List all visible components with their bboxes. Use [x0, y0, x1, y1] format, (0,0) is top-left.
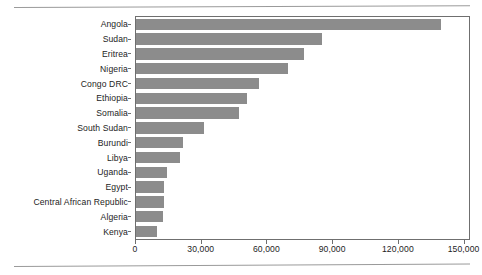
bar-row [136, 121, 469, 136]
page-rule-bottom [14, 264, 470, 267]
category-tick-ethiopia: Ethiopia [0, 91, 130, 106]
category-tick-label: Libya [107, 153, 128, 163]
category-tick-mark [128, 83, 131, 84]
category-tick-angola: Angola [0, 17, 130, 32]
bar-row [136, 165, 469, 180]
category-tick-label: Somalia [96, 108, 128, 118]
bar [136, 48, 304, 59]
category-tick-label: Congo DRC [81, 79, 128, 89]
bar-chart-figure: AngolaSudanEritreaNigeriaCongo DRCEthiop… [0, 0, 482, 275]
value-tick-label: 30,000 [187, 244, 214, 254]
category-tick-kenya: Kenya [0, 224, 130, 239]
value-tick-label: 150,000 [448, 244, 480, 254]
value-tick-label: 60,000 [253, 244, 280, 254]
bar-row [136, 180, 469, 195]
category-tick-eritrea: Eritrea [0, 47, 130, 62]
bar-row [136, 106, 469, 121]
bar-row [136, 195, 469, 210]
category-tick-mark [128, 53, 131, 54]
page-rule-top [14, 5, 470, 8]
bar [136, 93, 247, 104]
category-tick-egypt: Egypt [0, 180, 130, 195]
category-tick-mark [128, 68, 131, 69]
category-tick-mark [128, 24, 131, 25]
value-axis: 030,00060,00090,000120,000150,000 [135, 240, 471, 262]
bar-row [136, 32, 469, 47]
bar-row [136, 17, 469, 32]
category-tick-mark [128, 142, 131, 143]
category-tick-algeria: Algeria [0, 209, 130, 224]
category-tick-uganda: Uganda [0, 165, 130, 180]
value-tick-label: 90,000 [319, 244, 346, 254]
category-tick-label: Eritrea [102, 49, 128, 59]
category-tick-mark [128, 98, 131, 99]
category-tick-label: Angola [101, 19, 128, 29]
category-tick-mark [128, 127, 131, 128]
category-tick-mark [128, 157, 131, 158]
bar [136, 211, 163, 222]
category-tick-burundi: Burundi [0, 135, 130, 150]
bar [136, 63, 288, 74]
bar-row [136, 209, 469, 224]
bar [136, 78, 259, 89]
category-tick-label: Ethiopia [96, 93, 128, 103]
category-tick-mark [128, 216, 131, 217]
category-tick-mark [128, 113, 131, 114]
bar-row [136, 91, 469, 106]
bar [136, 226, 157, 237]
category-tick-label: Burundi [98, 138, 128, 148]
bar-row [136, 135, 469, 150]
bar [136, 167, 167, 178]
bar-row [136, 224, 469, 239]
category-tick-mark [128, 172, 131, 173]
category-tick-south-sudan: South Sudan [0, 121, 130, 136]
category-tick-somalia: Somalia [0, 106, 130, 121]
bar-series [136, 17, 469, 239]
bar [136, 137, 183, 148]
category-tick-label: Kenya [103, 227, 128, 237]
value-tick-label: 120,000 [382, 244, 414, 254]
bar-row [136, 76, 469, 91]
bar [136, 181, 164, 192]
category-tick-label: Central African Republic [33, 197, 128, 207]
category-tick-mark [128, 201, 131, 202]
bar [136, 152, 180, 163]
bar-row [136, 150, 469, 165]
bar [136, 19, 441, 30]
category-tick-label: Uganda [97, 167, 128, 177]
bar-row [136, 47, 469, 62]
category-tick-label: Nigeria [100, 64, 128, 74]
category-tick-congo-drc: Congo DRC [0, 76, 130, 91]
category-tick-label: Algeria [101, 212, 128, 222]
category-tick-central-african-republic: Central African Republic [0, 195, 130, 210]
bar [136, 33, 322, 44]
bar [136, 107, 239, 118]
category-axis: AngolaSudanEritreaNigeriaCongo DRCEthiop… [0, 17, 130, 239]
category-tick-label: South Sudan [77, 123, 128, 133]
bar-row [136, 61, 469, 76]
category-tick-libya: Libya [0, 150, 130, 165]
category-tick-sudan: Sudan [0, 32, 130, 47]
category-tick-label: Sudan [103, 34, 128, 44]
bar [136, 122, 204, 133]
category-tick-mark [128, 231, 131, 232]
category-tick-nigeria: Nigeria [0, 61, 130, 76]
bar [136, 196, 164, 207]
category-tick-mark [128, 39, 131, 40]
category-tick-mark [128, 187, 131, 188]
category-tick-label: Egypt [106, 182, 128, 192]
value-tick-label: 0 [133, 244, 138, 254]
